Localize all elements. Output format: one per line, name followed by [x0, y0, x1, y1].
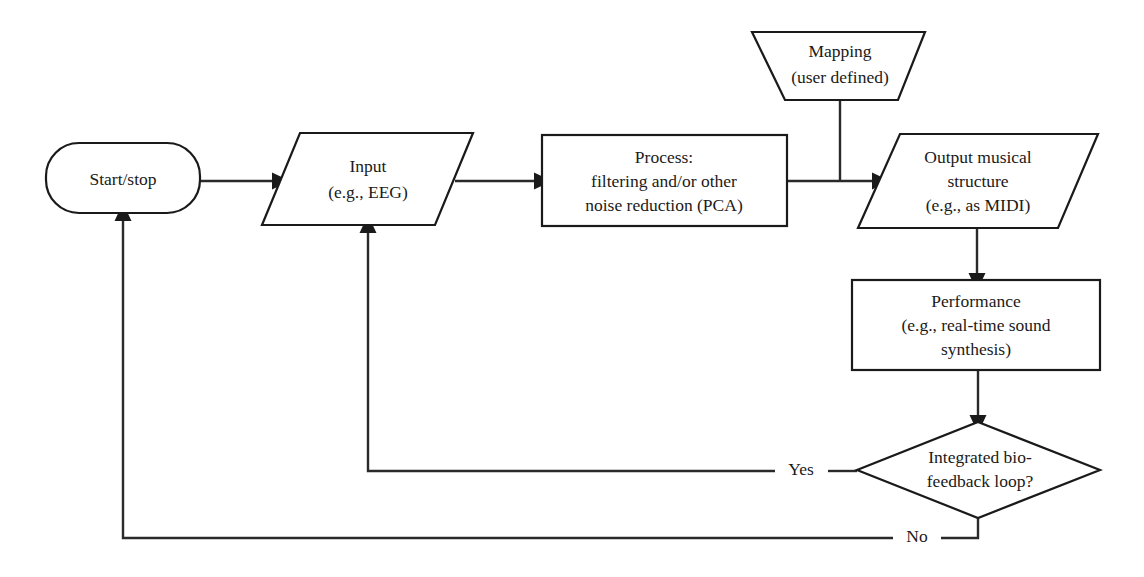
node-mapping[interactable]: Mapping (user defined)	[752, 32, 925, 100]
edge-label-no: No	[906, 526, 928, 546]
node-performance[interactable]: Performance (e.g., real-time sound synth…	[852, 280, 1100, 370]
node-start-stop[interactable]: Start/stop	[46, 143, 200, 213]
node-output-line-2: (e.g., as MIDI)	[926, 195, 1031, 215]
flowchart-canvas: Start/stop Input (e.g., EEG) Process: fi…	[0, 0, 1144, 577]
node-input[interactable]: Input (e.g., EEG)	[262, 133, 473, 225]
node-performance-line-2: synthesis)	[941, 339, 1011, 359]
node-performance-line-0: Performance	[931, 291, 1021, 311]
connector-input-to-process	[455, 173, 552, 190]
connector-no-to-start	[115, 203, 979, 538]
node-decision[interactable]: Integrated bio- feedback loop?	[857, 422, 1100, 518]
node-decision-line-1: feedback loop?	[927, 471, 1034, 491]
node-process-line-2: noise reduction (PCA)	[585, 195, 743, 215]
flowchart-svg: Start/stop Input (e.g., EEG) Process: fi…	[0, 0, 1144, 577]
connector-yes-to-input	[360, 215, 858, 471]
node-process[interactable]: Process: filtering and/or other noise re…	[542, 135, 787, 226]
node-process-line-1: filtering and/or other	[591, 171, 737, 191]
node-process-line-0: Process:	[635, 147, 693, 167]
node-input-line-1: (e.g., EEG)	[328, 182, 408, 202]
connector-start-to-input	[200, 173, 290, 190]
connector-process-to-output	[787, 173, 890, 190]
node-start-stop-line-0: Start/stop	[89, 169, 156, 189]
node-mapping-line-0: Mapping	[808, 41, 871, 61]
node-output-line-0: Output musical	[924, 147, 1032, 167]
edge-label-yes: Yes	[788, 459, 814, 479]
node-output[interactable]: Output musical structure (e.g., as MIDI)	[858, 134, 1098, 228]
node-output-line-1: structure	[947, 171, 1008, 191]
node-mapping-line-1: (user defined)	[791, 67, 889, 87]
node-input-line-0: Input	[350, 156, 387, 176]
node-performance-line-1: (e.g., real-time sound	[901, 315, 1050, 335]
node-decision-line-0: Integrated bio-	[928, 447, 1032, 467]
